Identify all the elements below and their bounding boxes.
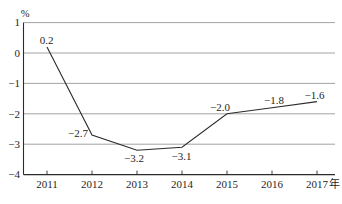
y-axis-unit-label: %	[21, 8, 30, 19]
x-tick-label: 2014	[171, 178, 194, 190]
y-tick-label: −3	[8, 138, 20, 150]
x-tick-label: 2017	[306, 178, 329, 190]
y-tick-label: −1	[8, 77, 20, 89]
y-tick-label: −2	[8, 108, 20, 120]
x-tick-label: 2011	[36, 178, 58, 190]
x-tick-label: 2015	[216, 178, 239, 190]
data-point-label: −1.6	[305, 89, 325, 101]
data-point-label: −3.2	[124, 152, 144, 164]
line-chart: 10−1−2−3−42011201220132014201520162017%年…	[0, 0, 342, 204]
data-point-label: −1.8	[264, 94, 284, 106]
x-tick-label: 2016	[261, 178, 284, 190]
y-tick-label: 1	[15, 16, 21, 28]
x-tick-label: 2013	[126, 178, 149, 190]
y-tick-label: 0	[15, 47, 21, 59]
data-point-label: −2.7	[68, 127, 88, 139]
data-point-label: 0.2	[40, 34, 54, 46]
data-point-label: −3.1	[172, 150, 192, 162]
y-tick-label: −4	[8, 168, 20, 180]
x-axis-suffix-label: 年	[329, 177, 340, 190]
x-tick-label: 2012	[81, 178, 103, 190]
chart-container: 10−1−2−3−42011201220132014201520162017%年…	[0, 0, 342, 204]
data-point-label: −2.0	[210, 101, 230, 113]
